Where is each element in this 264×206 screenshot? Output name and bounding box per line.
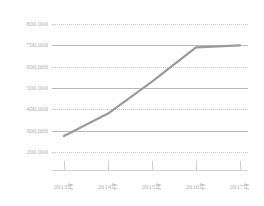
- y-axis-tick-label: 600,000: [2, 63, 48, 70]
- gridline-500000: [52, 88, 248, 89]
- x-axis-tick: [196, 161, 197, 170]
- x-axis-tick: [64, 161, 65, 170]
- y-axis-tick-label: 300,000: [2, 127, 48, 134]
- x-axis-tick-label: 2013年: [54, 181, 75, 191]
- x-axis-tick-label: 2017年: [230, 181, 251, 191]
- gridline-400000: [52, 109, 248, 110]
- plot-area: [52, 24, 248, 152]
- x-axis-tick-label: 2014年: [98, 181, 119, 191]
- gridline-700000: [52, 45, 248, 46]
- line-chart: 800,000 700,000 600,000 500,000 400,000 …: [0, 0, 264, 206]
- gridline-600000: [52, 67, 248, 68]
- x-axis-line: [52, 170, 248, 171]
- y-axis-tick-label: 800,000: [2, 21, 48, 28]
- x-axis-tick: [152, 161, 153, 170]
- y-axis-tick-label: 500,000: [2, 85, 48, 92]
- gridline-200000: [52, 152, 248, 153]
- gridline-300000: [52, 131, 248, 132]
- y-axis-tick-label: 400,000: [2, 106, 48, 113]
- gridline-800000: [52, 24, 248, 25]
- x-axis-tick: [240, 161, 241, 170]
- x-axis-tick-label: 2016年: [186, 181, 207, 191]
- y-axis-labels: 800,000 700,000 600,000 500,000 400,000 …: [0, 24, 48, 152]
- y-axis-tick-label: 700,000: [2, 42, 48, 49]
- y-axis-tick-label: 200,000: [2, 149, 48, 156]
- x-axis-tick: [108, 161, 109, 170]
- x-axis-tick-label: 2015年: [142, 181, 163, 191]
